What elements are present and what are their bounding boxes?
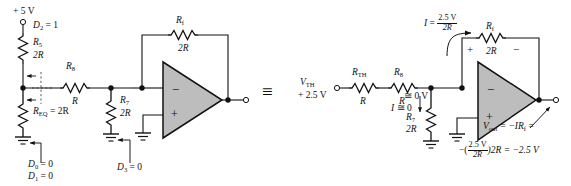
req-label: REQ = 2R: [33, 107, 69, 117]
left-output-node: [225, 97, 230, 102]
r8-value-label: R: [72, 97, 78, 107]
d2-label: D2 = 1: [33, 21, 58, 31]
r5-name-label: R5: [33, 38, 42, 48]
vout-formula-line1: Vout = −IRf =: [483, 122, 534, 132]
r7-value-label-left: 2R: [120, 109, 131, 119]
rf-minus-polarity-label: −: [513, 44, 519, 55]
r7-name-label-left: R7: [120, 96, 129, 106]
virtual-ground-label: ≅ 0 V: [404, 92, 428, 102]
right-output-terminal: [553, 97, 558, 102]
vth-value-label: + 2.5 V: [298, 91, 327, 101]
left-opamp-body: [163, 62, 222, 138]
right-output-node: [536, 97, 541, 102]
rf-value-label-left: 2R: [178, 44, 189, 54]
rf-name-label-right: Rf: [486, 22, 494, 32]
equivalence-symbol: ≡: [262, 82, 273, 101]
r7-name-label-right: R7: [406, 113, 415, 123]
rth-value-label: R: [360, 97, 366, 107]
supply-label: + 5 V: [13, 7, 35, 17]
rf-name-label-left: Rf: [176, 16, 184, 26]
left-circuit-graphics: [15, 19, 249, 163]
left-opamp-plus-label: +: [171, 108, 178, 120]
d0-label: D0 = 0: [28, 160, 53, 170]
r7-value-label-right: 2R: [406, 125, 417, 135]
rth-name-label: RTH: [352, 68, 367, 78]
left-output-terminal: [243, 97, 248, 102]
r5-value-label: 2R: [33, 51, 44, 61]
left-opamp-minus-label: −: [172, 83, 179, 96]
right-opamp-minus-label: −: [487, 83, 494, 96]
vth-terminal-node: [334, 85, 339, 90]
vth-name-label: VTH: [300, 78, 315, 88]
supply-terminal-node: [20, 19, 25, 24]
vout-formula-line2: −(2.5 V2R)2R = −2.5 V: [459, 141, 539, 159]
current-formula-label: I = 2.5 V2R: [424, 14, 457, 32]
rf-plus-polarity-label: +: [467, 44, 473, 55]
r8-name-label: R8: [66, 62, 75, 72]
circuit-figure: + 5 V D2 = 1 R5 2R R8 R REQ = 2R R7 2R R…: [0, 0, 571, 186]
d3-label: D3 = 0: [117, 163, 142, 173]
rf-value-label-right: 2R: [486, 47, 497, 57]
r8-name-label-right: R8: [394, 68, 403, 78]
d1-label: D1 = 0: [28, 172, 53, 182]
